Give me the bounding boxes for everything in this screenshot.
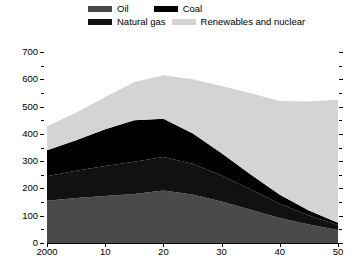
x-axis-tick-mark: [105, 243, 106, 247]
y-axis-tick-mark: [40, 107, 44, 108]
legend-label-oil: Oil: [117, 4, 129, 14]
legend-row-top: Oil Coal: [88, 4, 202, 14]
x-axis-line: [47, 243, 338, 244]
x-axis-tick-label: 30: [216, 246, 227, 257]
y-axis-minor-tick-mark: [41, 66, 44, 67]
right-axis-tick-mark: [339, 134, 343, 135]
y-axis-minor-tick-mark: [41, 175, 44, 176]
right-axis-minor-tick-mark: [339, 175, 342, 176]
legend-item-natural-gas[interactable]: Natural gas: [88, 17, 166, 27]
legend-label-renewables-and-nuclear: Renewables and nuclear: [201, 17, 306, 27]
x-axis-tick-mark: [47, 243, 48, 247]
y-axis-labels: 0100200300400500600700: [0, 0, 38, 274]
y-axis-minor-tick-mark: [41, 148, 44, 149]
right-axis-minor-tick-mark: [339, 120, 342, 121]
right-axis-minor-tick-mark: [339, 93, 342, 94]
y-axis-tick-mark: [40, 243, 44, 244]
plot-area: [47, 52, 338, 243]
right-axis-tick-mark: [339, 52, 343, 53]
right-axis-minor-tick-mark: [339, 229, 342, 230]
y-axis-tick-label: 500: [4, 102, 38, 111]
y-axis-tick-label: 600: [4, 74, 38, 83]
legend-label-coal: Coal: [183, 4, 203, 14]
y-axis-minor-tick-mark: [41, 120, 44, 121]
stacked-area-series-group: [47, 52, 338, 243]
right-axis-tick-mark: [339, 161, 343, 162]
legend-label-natural-gas: Natural gas: [117, 17, 166, 27]
y-axis-tick-label: 400: [4, 129, 38, 138]
legend-item-oil[interactable]: Oil: [88, 4, 129, 14]
legend-swatch-icon-natural-gas: [88, 19, 112, 25]
y-axis-minor-tick-mark: [41, 93, 44, 94]
y-axis-tick-mark: [40, 52, 44, 53]
y-axis-tick-mark: [40, 216, 44, 217]
y-axis-minor-tick-mark: [41, 229, 44, 230]
legend-swatch-icon-oil: [88, 6, 112, 12]
right-axis-tick-mark: [339, 216, 343, 217]
x-axis-tick-mark: [338, 243, 339, 247]
legend-swatch-icon-coal: [154, 6, 178, 12]
legend-row-bottom: Natural gas Renewables and nuclear: [88, 17, 305, 27]
y-axis-tick-label: 200: [4, 183, 38, 192]
x-axis-tick-label: 10: [100, 246, 111, 257]
y-axis-tick-mark: [40, 188, 44, 189]
x-axis-tick-label: 2000: [36, 246, 57, 257]
x-axis-tick-label: 50: [333, 246, 344, 257]
right-axis-tick-mark: [339, 188, 343, 189]
x-axis-labels: 20001020304050: [0, 246, 352, 266]
x-axis-tick-mark: [163, 243, 164, 247]
chart-figure: Oil Coal Natural gas Renewables and nucl…: [0, 0, 352, 274]
right-axis-minor-tick-mark: [339, 66, 342, 67]
y-axis-tick-label: 300: [4, 156, 38, 165]
y-axis-tick-mark: [40, 134, 44, 135]
legend-swatch-icon-renewables-and-nuclear: [172, 19, 196, 25]
x-axis-tick-mark: [280, 243, 281, 247]
y-axis-tick-mark: [40, 161, 44, 162]
y-axis-tick-label: 100: [4, 211, 38, 220]
y-axis-tick-mark: [40, 79, 44, 80]
legend-item-coal[interactable]: Coal: [154, 4, 203, 14]
right-axis-minor-tick-mark: [339, 148, 342, 149]
legend-item-renewables-and-nuclear[interactable]: Renewables and nuclear: [172, 17, 306, 27]
y-axis-minor-tick-mark: [41, 202, 44, 203]
right-axis-tick-mark: [339, 79, 343, 80]
x-axis-tick-label: 40: [275, 246, 286, 257]
x-axis-tick-label: 20: [158, 246, 169, 257]
chart-legend: Oil Coal Natural gas Renewables and nucl…: [88, 4, 338, 34]
right-axis-tick-mark: [339, 243, 343, 244]
x-axis-tick-mark: [222, 243, 223, 247]
right-axis-tick-mark: [339, 107, 343, 108]
y-axis-tick-label: 700: [4, 47, 38, 56]
right-axis-minor-tick-mark: [339, 202, 342, 203]
